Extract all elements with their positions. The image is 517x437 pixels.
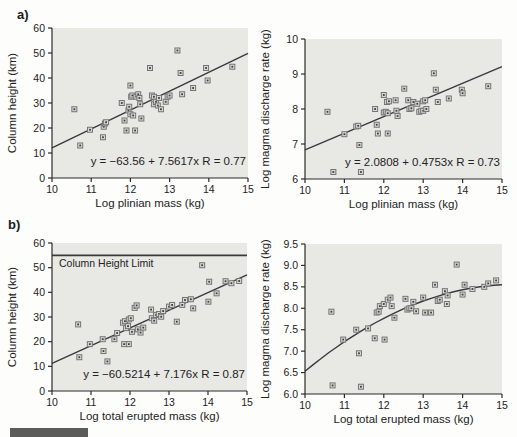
x-axis-title: Log plinian mass (kg) <box>95 197 204 209</box>
data-point-dot <box>153 96 155 98</box>
data-point-dot <box>79 145 81 147</box>
data-point-dot <box>487 283 489 285</box>
y-axis-title: Column height (km) <box>6 267 18 368</box>
data-point-dot <box>177 50 179 52</box>
data-point-dot <box>462 294 464 296</box>
data-point-dot <box>412 101 414 103</box>
data-point-dot <box>383 94 385 96</box>
data-point-dot <box>448 98 450 100</box>
y-tick-label: 50 <box>33 47 45 59</box>
x-tick-label: 12 <box>378 184 390 196</box>
y-tick-label: 8.0 <box>283 302 298 314</box>
data-point-dot <box>446 303 448 305</box>
x-axis-title: Log plinian mass (kg) <box>349 198 458 210</box>
data-point-dot <box>487 85 489 87</box>
data-point-dot <box>405 298 407 300</box>
data-point-dot <box>131 331 133 333</box>
data-point-dot <box>374 108 376 110</box>
data-point-dot <box>181 304 183 306</box>
data-point-dot <box>387 133 389 135</box>
data-point-dot <box>128 106 130 108</box>
data-point-dot <box>456 264 458 266</box>
data-point-dot <box>410 107 412 109</box>
x-tick-label: 10 <box>46 396 58 408</box>
data-point-dot <box>158 97 160 99</box>
data-point-dot <box>437 101 439 103</box>
caption-bar <box>10 428 88 437</box>
y-tick-label: 40 <box>33 72 45 84</box>
data-point-dot <box>434 284 436 286</box>
data-point-dot <box>162 310 164 312</box>
data-point-dot <box>89 129 91 131</box>
x-tick-label: 14 <box>457 184 469 196</box>
data-point-dot <box>181 93 183 95</box>
data-point-dot <box>207 80 209 82</box>
data-point-dot <box>344 133 346 135</box>
data-point-dot <box>208 281 210 283</box>
x-tick-label: 10 <box>46 183 58 195</box>
y-axis-title: Log magma discharge rate (kg) <box>259 29 271 189</box>
x-tick-label: 11 <box>86 183 97 195</box>
data-point-dot <box>140 118 142 120</box>
x-tick-label: 15 <box>496 399 508 411</box>
y-tick-label: 7 <box>292 138 298 150</box>
data-point-dot <box>102 338 104 340</box>
data-point-dot <box>180 72 182 74</box>
data-point-dot <box>192 307 194 309</box>
data-point-dot <box>216 292 218 294</box>
data-point-dot <box>355 329 357 331</box>
y-tick-label: 6.0 <box>283 388 298 400</box>
data-point-dot <box>136 305 138 307</box>
data-point-dot <box>342 339 344 341</box>
y-tick-label: 60 <box>33 237 45 249</box>
y-tick-label: 50 <box>33 261 45 273</box>
equation-label: y = 2.0808 + 0.4753x R = 0.73 <box>345 156 500 168</box>
y-axis-title: Log magma discharge rate (kg) <box>259 239 271 399</box>
data-point-dot <box>376 124 378 126</box>
x-tick-label: 13 <box>164 183 176 195</box>
y-tick-label: 10 <box>286 33 298 45</box>
data-point-dot <box>358 144 360 146</box>
data-point-dot <box>330 311 332 313</box>
y-tick-label: 10 <box>33 360 45 372</box>
data-point-dot <box>332 385 334 387</box>
data-point-dot <box>412 301 414 303</box>
data-point-dot <box>231 282 233 284</box>
data-point-dot <box>73 108 75 110</box>
data-point-dot <box>78 356 80 358</box>
data-point-dot <box>379 305 381 307</box>
y-tick-label: 9.0 <box>283 259 298 271</box>
plot-background <box>305 244 502 394</box>
data-point-dot <box>121 102 123 104</box>
x-tick-label: 11 <box>339 184 350 196</box>
data-point-dot <box>495 280 497 282</box>
data-point-dot <box>358 352 360 354</box>
x-tick-label: 12 <box>125 183 137 195</box>
y-tick-label: 8 <box>292 103 298 115</box>
data-point-dot <box>424 312 426 314</box>
data-point-dot <box>444 290 446 292</box>
data-point-dot <box>124 320 126 322</box>
data-point-dot <box>378 311 380 313</box>
data-point-dot <box>89 343 91 345</box>
x-tick-label: 14 <box>457 399 469 411</box>
data-point-dot <box>472 288 474 290</box>
data-point-dot <box>207 301 209 303</box>
data-point-dot <box>394 317 396 319</box>
data-point-dot <box>184 299 186 301</box>
data-point-dot <box>132 115 134 117</box>
y-tick-label: 30 <box>33 97 45 109</box>
data-point-dot <box>128 343 130 345</box>
y-tick-label: 40 <box>33 286 45 298</box>
x-tick-label: 10 <box>299 399 311 411</box>
data-point-dot <box>403 88 405 90</box>
data-point-dot <box>430 312 432 314</box>
data-point-dot <box>190 298 192 300</box>
x-tick-label: 14 <box>203 183 215 195</box>
x-tick-label: 13 <box>417 399 429 411</box>
data-point-dot <box>106 361 108 363</box>
y-tick-label: 7.5 <box>283 323 298 335</box>
data-point-dot <box>157 105 159 107</box>
x-tick-label: 11 <box>339 399 350 411</box>
data-point-dot <box>105 121 107 123</box>
